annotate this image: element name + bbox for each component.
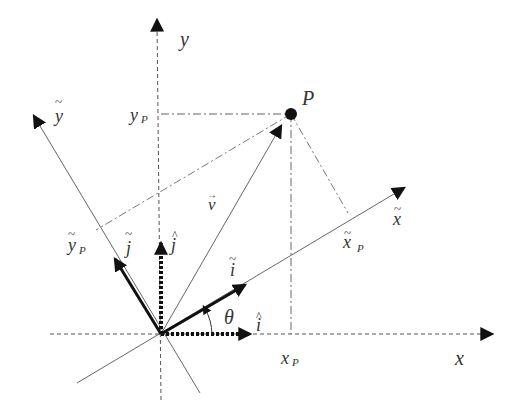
y-axis-label: y (178, 28, 189, 51)
vector-v (161, 126, 281, 334)
y-tilde-p-subscript: P (78, 244, 86, 256)
x-p-subscript: P (291, 356, 299, 368)
y-p-label: y (128, 105, 138, 125)
x-tilde-axis (77, 188, 404, 383)
x-axis-label: x (454, 347, 464, 369)
y-tilde-p-projection (96, 114, 291, 230)
x-tilde-p-projection (291, 114, 348, 213)
j-hat-mark: ^ (172, 228, 178, 242)
x-tilde-axis-tilde: ~ (394, 201, 401, 216)
point-p-label: P (301, 87, 314, 109)
y-tilde-axis-tilde: ~ (55, 94, 62, 109)
j-tilde-vector (115, 259, 161, 334)
x-p-label: x (280, 348, 289, 368)
y-axis (157, 20, 161, 400)
x-tilde-p-tilde: ~ (344, 225, 351, 240)
point-p (285, 108, 297, 120)
x-tilde-p-subscript: P (356, 242, 364, 254)
coordinate-rotation-diagram: y x P y P x P x ~ y ~ x ~ P y ~ P v → i … (0, 0, 520, 419)
j-tilde-mark: ~ (125, 226, 132, 241)
j-tilde-label: j (124, 238, 131, 258)
i-hat-mark: ^ (256, 309, 262, 323)
y-tilde-axis-label: y (53, 106, 63, 126)
y-p-subscript: P (140, 113, 148, 125)
theta-arc (205, 309, 212, 334)
y-tilde-p-tilde: ~ (68, 226, 75, 241)
theta-label: θ (224, 306, 234, 328)
i-tilde-mark: ~ (229, 251, 236, 266)
vector-v-arrow: → (207, 189, 217, 200)
